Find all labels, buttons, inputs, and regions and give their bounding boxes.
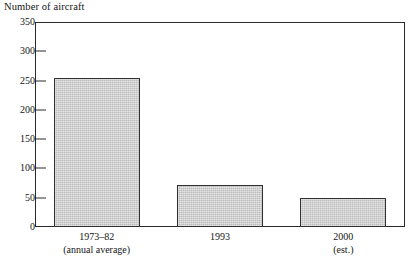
y-tick-label: 300 <box>2 46 35 56</box>
x-category-label-main: 2000 <box>333 231 353 242</box>
bar <box>177 185 263 227</box>
y-tick-label: 350 <box>2 17 35 27</box>
y-tick-label: 200 <box>2 105 35 115</box>
bar-chart: Number of aircraft 050100150200250300350… <box>0 0 412 269</box>
bar <box>54 78 140 227</box>
x-category-label-sub: (annual average) <box>63 243 130 256</box>
y-tick-label: 0 <box>2 222 35 232</box>
x-category-label: 2000(est.) <box>333 230 353 256</box>
bar-series <box>35 22 405 227</box>
x-category-label-main: 1973–82 <box>79 231 114 242</box>
x-category-label: 1993 <box>210 230 230 243</box>
y-axis-tick-labels: 050100150200250300350 <box>0 22 35 227</box>
y-axis-title: Number of aircraft <box>4 1 85 12</box>
x-axis-category-labels: 1973–82(annual average)19932000(est.) <box>35 230 405 268</box>
y-tick-label: 250 <box>2 76 35 86</box>
y-tick-label: 100 <box>2 163 35 173</box>
y-tick-label: 50 <box>2 193 35 203</box>
bar <box>300 198 386 227</box>
x-category-label-main: 1993 <box>210 231 230 242</box>
y-tick-label: 150 <box>2 134 35 144</box>
x-category-label: 1973–82(annual average) <box>63 230 130 256</box>
x-category-label-sub: (est.) <box>333 243 353 256</box>
